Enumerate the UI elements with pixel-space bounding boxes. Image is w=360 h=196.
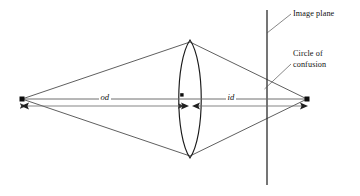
image-point-marker bbox=[305, 97, 310, 102]
lens-center-dot bbox=[180, 93, 183, 96]
object-point-marker bbox=[20, 97, 25, 102]
circle-of-confusion-leader bbox=[265, 64, 292, 89]
ray-upper-incident bbox=[22, 42, 190, 99]
object-distance-label: od bbox=[99, 92, 111, 102]
ray-upper-refracted bbox=[190, 42, 307, 99]
figure-canvas: Image plane Circle ofconfusion od id bbox=[0, 0, 360, 196]
image-plane-leader bbox=[267, 14, 291, 33]
circle-of-confusion-label-line2: confusion bbox=[293, 60, 326, 69]
circle-of-confusion-label: Circle ofconfusion bbox=[293, 49, 326, 70]
ray-lower-incident bbox=[22, 99, 190, 156]
ray-diagram bbox=[0, 0, 360, 196]
image-plane-label: Image plane bbox=[293, 9, 334, 20]
ray-lower-refracted bbox=[190, 99, 307, 156]
image-distance-label: id bbox=[226, 92, 236, 102]
circle-of-confusion-label-line1: Circle of bbox=[293, 49, 323, 58]
